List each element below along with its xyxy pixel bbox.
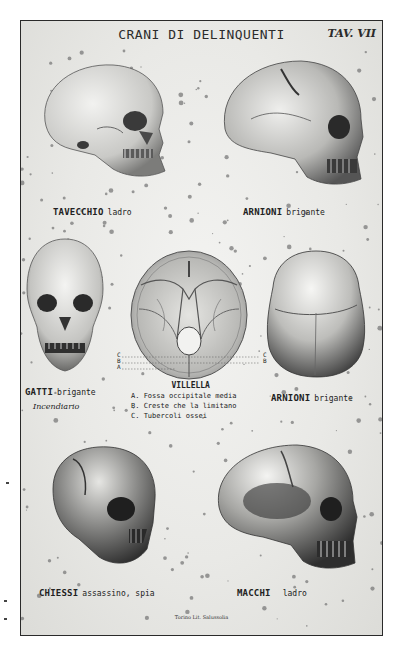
- marker-a-left: A: [117, 363, 121, 370]
- lithograph-plate: CRANI DI DELINQUENTI TAV. VII TAVECCHIO: [20, 20, 383, 636]
- legend-item-b: B. Creste che la limitano: [131, 401, 236, 411]
- legend-item-c: C. Tubercoli ossei: [131, 411, 236, 421]
- caption-arnioni-superior: ARNIONIbrigante: [271, 393, 353, 403]
- margin-mark: [6, 482, 9, 484]
- printer-credit: Torino Lit. Salussolia: [21, 614, 382, 620]
- plate-number: TAV. VII: [328, 27, 376, 40]
- skull-gatti-frontal: [23, 235, 107, 375]
- skull-tavecchio-lateral: [35, 51, 185, 186]
- skull-chiessi-three-quarter: [43, 439, 163, 569]
- villella-legend-title: VILLELLA: [131, 381, 236, 391]
- caption-tavecchio: TAVECCHIOladro: [53, 207, 132, 217]
- legend-item-a: A. Fossa occipitale media: [131, 391, 236, 401]
- caption-macchi: MACCHIladro: [237, 588, 307, 598]
- caption-chiessi: CHIESSIassassino, spia: [39, 588, 155, 598]
- margin-mark: [4, 618, 7, 620]
- caption-gatti-secondary: Incendiario: [33, 401, 79, 411]
- skull-arnioni-lateral: [211, 49, 376, 189]
- skull-macchi-lateral: [207, 437, 377, 573]
- caption-gatti: GATTIbrigante: [25, 387, 96, 397]
- villella-legend: VILLELLA A. Fossa occipitale media B. Cr…: [131, 381, 236, 421]
- margin-mark: [4, 600, 7, 602]
- caption-arnioni-lateral: ARNIONIbrigante: [243, 207, 325, 217]
- villella-guide-lines: [116, 351, 266, 381]
- skull-arnioni-superior: [261, 247, 371, 381]
